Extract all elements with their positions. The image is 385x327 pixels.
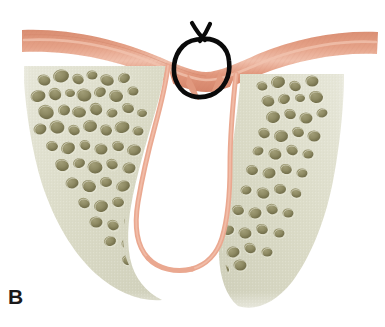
bone-bottom-fade [0, 248, 385, 327]
bone-left-fade [0, 56, 30, 286]
figure-panel-b: B [0, 0, 385, 327]
panel-label: B [8, 286, 23, 307]
bone-right-fade [336, 60, 385, 310]
anatomical-illustration [0, 0, 385, 327]
